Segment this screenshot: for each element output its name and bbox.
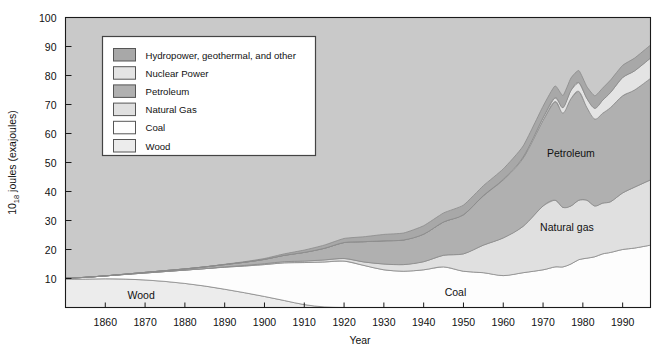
legend-swatch-nuclear	[114, 67, 136, 80]
x-tick-label: 1880	[173, 316, 197, 328]
y-axis-title-unit: joules (exajoules)	[6, 110, 18, 195]
x-tick-label: 1910	[293, 316, 317, 328]
legend-label-natural-gas: Natural Gas	[146, 104, 197, 115]
chart-legend: Hydropower, geothermal, and otherNuclear…	[103, 37, 316, 156]
legend-swatch-coal	[114, 121, 136, 134]
x-axis-title: Year	[349, 334, 371, 346]
x-tick-label: 1900	[253, 316, 277, 328]
x-tick-label: 1860	[94, 316, 118, 328]
legend-swatch-wood	[114, 140, 136, 153]
y-tick-label: 80	[45, 70, 57, 82]
chart-svg: 1020304050607080901001860187018801890190…	[0, 0, 669, 360]
y-tick-label: 30	[45, 215, 57, 227]
x-tick-label: 1950	[452, 316, 476, 328]
y-tick-label: 50	[45, 157, 57, 169]
x-tick-label: 1990	[611, 316, 635, 328]
y-axis-title-exponent: 18	[12, 195, 21, 203]
legend-label-wood: Wood	[146, 141, 171, 152]
legend-label-petroleum: Petroleum	[146, 86, 190, 97]
legend-swatch-natural-gas	[114, 103, 136, 116]
legend-label-nuclear-power: Nuclear Power	[146, 68, 210, 79]
area-label-coal: Coal	[445, 286, 467, 298]
energy-consumption-chart: 1020304050607080901001860187018801890190…	[0, 0, 669, 360]
y-tick-label: 70	[45, 99, 57, 111]
x-tick-label: 1960	[492, 316, 516, 328]
x-tick-label: 1980	[571, 316, 595, 328]
area-label-petroleum: Petroleum	[547, 147, 595, 159]
legend-label-coal: Coal	[146, 122, 166, 133]
x-tick-label: 1870	[133, 316, 157, 328]
y-tick-label: 100	[39, 12, 57, 24]
x-tick-label: 1970	[531, 316, 555, 328]
x-tick-label: 1940	[412, 316, 436, 328]
y-tick-label: 40	[45, 186, 57, 198]
area-label-natural-gas: Natural gas	[540, 221, 594, 233]
x-tick-label: 1930	[372, 316, 396, 328]
y-axis-title-base: 10	[6, 203, 18, 215]
y-tick-label: 10	[45, 273, 57, 285]
y-tick-label: 20	[45, 244, 57, 256]
y-tick-label: 60	[45, 128, 57, 140]
area-label-wood: Wood	[127, 289, 154, 301]
x-tick-label: 1890	[213, 316, 237, 328]
legend-swatch-petroleum	[114, 85, 136, 98]
legend-swatch-hydropower	[114, 49, 136, 62]
x-tick-label: 1920	[332, 316, 356, 328]
legend-label-hydropower-geothermal-and-other: Hydropower, geothermal, and other	[146, 50, 297, 61]
y-tick-label: 90	[45, 41, 57, 53]
